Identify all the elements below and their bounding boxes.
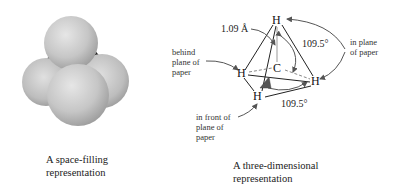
bond-length-label: 1.09 Å xyxy=(221,23,248,34)
annotation-line: plane of xyxy=(196,122,230,132)
annotation-in-front: in front of plane of paper xyxy=(196,112,230,142)
caption-line: representation xyxy=(46,166,108,179)
arrow-in-plane-right xyxy=(320,52,345,79)
bond-c-right-dashed xyxy=(285,70,310,79)
angle-label-lower: 109.5° xyxy=(281,98,308,109)
angle-arc-upper xyxy=(281,36,296,72)
annotation-line: in plane xyxy=(350,37,378,47)
caption-line: A space-filling xyxy=(46,153,108,166)
edge-top-right xyxy=(282,25,313,76)
annotation-line: plane of xyxy=(172,57,200,67)
atom-h-left: H xyxy=(237,66,246,81)
bond-c-left-dashed xyxy=(249,68,272,72)
annotation-line: behind xyxy=(172,47,200,57)
edge-bottom-right xyxy=(265,86,311,97)
caption-three-dimensional: A three-dimensional representation xyxy=(233,159,318,185)
atom-h-bottom: H xyxy=(253,89,262,104)
arrow-behind xyxy=(206,61,238,70)
annotation-line: paper xyxy=(172,67,200,77)
arrow-in-front xyxy=(238,104,257,117)
atom-c-center: C xyxy=(273,61,281,76)
annotation-line: paper xyxy=(196,132,230,142)
angle-label-upper: 109.5° xyxy=(302,38,329,49)
annotation-behind-plane: behind plane of paper xyxy=(172,47,200,77)
caption-line: A three-dimensional xyxy=(233,159,318,172)
arrow-bond-length xyxy=(251,29,275,45)
caption-line: representation xyxy=(233,172,318,185)
annotation-line: of paper xyxy=(350,47,378,57)
wedge-bond-front xyxy=(260,77,271,88)
caption-space-filling: A space-filling representation xyxy=(46,153,108,179)
annotation-line: in front of xyxy=(196,112,230,122)
annotation-in-plane: in plane of paper xyxy=(350,37,378,57)
edge-top-left xyxy=(245,25,273,70)
atom-h-right: H xyxy=(311,74,320,89)
atom-h-top: H xyxy=(272,13,281,28)
